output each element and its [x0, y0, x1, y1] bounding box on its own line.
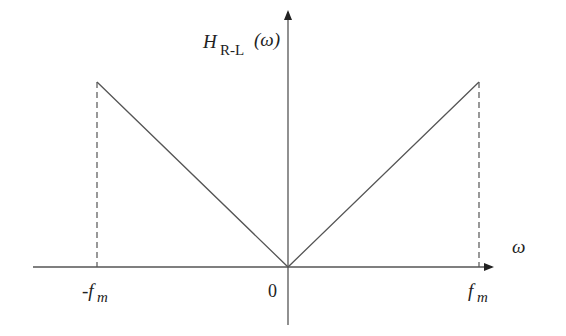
diagram: H R-L (ω) ω -f m 0 f m: [0, 0, 566, 336]
tick-fm: f: [468, 280, 476, 301]
y-axis-label-sub: R-L: [220, 42, 244, 58]
x-axis-label: ω: [512, 236, 525, 257]
y-axis-label-arg: (ω): [254, 29, 280, 51]
tick-fm-sub: m: [477, 289, 488, 305]
tick-neg-fm: -f: [82, 280, 96, 301]
tick-zero: 0: [268, 281, 277, 301]
y-axis-label: H: [202, 31, 218, 52]
tick-neg-fm-sub: m: [97, 289, 108, 305]
